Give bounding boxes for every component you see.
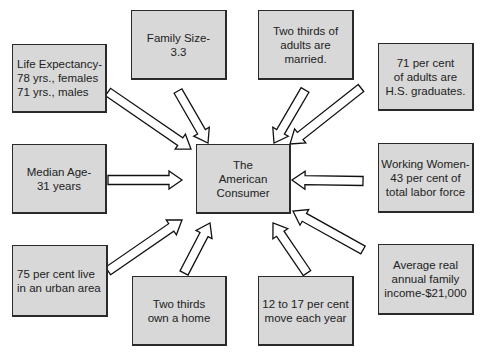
income-box: Average real annual family income-$21,00…: [378, 244, 474, 315]
own-home-arrow-icon: [180, 223, 212, 275]
move-text: 12 to 17 per cent move each year: [262, 297, 348, 325]
urban-text: 75 per cent live in an urban area: [17, 267, 101, 295]
married-box: Two thirds of adults are married.: [258, 10, 354, 80]
own-home-box: Two thirds own a home: [132, 276, 227, 346]
urban-box: 75 per cent live in an urban area: [12, 245, 108, 317]
move-box: 12 to 17 per cent move each year: [258, 276, 354, 346]
median-age-arrow-icon: [108, 171, 182, 189]
income-text: Average real annual family income-$21,00…: [384, 258, 466, 300]
urban-arrow-icon: [105, 220, 182, 275]
own-home-text: Two thirds own a home: [148, 297, 211, 325]
family-size-box: Family Size- 3.3: [131, 10, 227, 80]
life-expectancy-text: Life Expectancy- 78 yrs., females 71 yrs…: [17, 57, 102, 99]
american-consumer-center-box: The American Consumer: [196, 144, 291, 214]
life-expectancy-box: Life Expectancy- 78 yrs., females 71 yrs…: [12, 44, 107, 113]
median-age-box: Median Age- 31 years: [12, 144, 107, 214]
hs-graduates-text: 71 per cent of adults are H.S. graduates…: [386, 56, 466, 98]
working-women-arrow-icon: [292, 171, 363, 189]
family-size-text: Family Size- 3.3: [147, 31, 210, 59]
move-arrow-icon: [273, 223, 311, 276]
working-women-text: Working Women- 43 per cent of total labo…: [381, 157, 469, 199]
married-text: Two thirds of adults are married.: [259, 24, 352, 66]
center-text: The American Consumer: [216, 158, 269, 200]
income-arrow-icon: [293, 210, 365, 254]
median-age-text: Median Age- 31 years: [27, 165, 92, 193]
hs-graduates-box: 71 per cent of adults are H.S. graduates…: [378, 43, 474, 111]
working-women-box: Working Women- 43 per cent of total labo…: [378, 143, 474, 213]
